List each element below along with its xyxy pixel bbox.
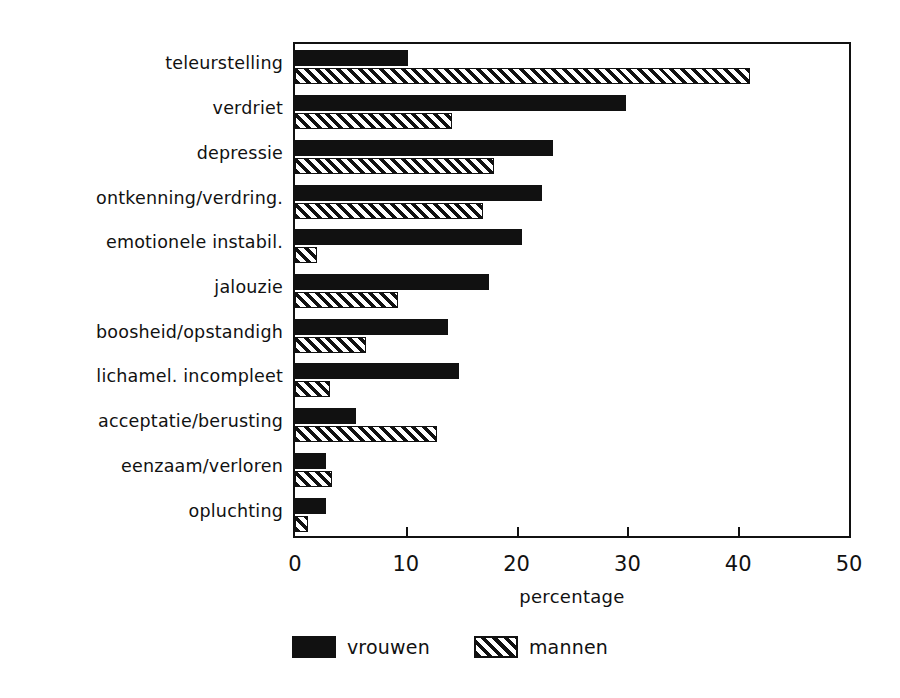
y-axis-label: lichamel. incompleet <box>0 368 283 386</box>
bar-vrouwen <box>295 274 489 290</box>
y-axis-label: jalouzie <box>0 279 283 297</box>
y-axis-label: ontkenning/verdring. <box>0 190 283 208</box>
x-axis-tick <box>406 527 408 538</box>
bar-mannen <box>295 203 483 219</box>
x-axis-tick-label: 20 <box>503 552 530 576</box>
legend-item-vrouwen: vrouwen <box>292 636 430 658</box>
y-axis-label: eenzaam/verloren <box>0 458 283 476</box>
bar-vrouwen <box>295 498 326 514</box>
x-axis-tick <box>738 527 740 538</box>
bar-vrouwen <box>295 50 408 66</box>
y-axis-label: depressie <box>0 145 283 163</box>
bar-vrouwen <box>295 185 542 201</box>
bar-mannen <box>295 426 437 442</box>
legend-label-mannen: mannen <box>529 636 608 658</box>
bar-mannen <box>295 247 317 263</box>
y-axis-label: teleurstelling <box>0 55 283 73</box>
legend-label-vrouwen: vrouwen <box>347 636 430 658</box>
x-axis-tick-label: 10 <box>392 552 419 576</box>
bar-vrouwen <box>295 319 448 335</box>
bar-series-group <box>295 44 849 536</box>
x-axis-tick-labels: 01020304050 <box>293 552 851 580</box>
legend-swatch-solid-icon <box>292 636 336 658</box>
legend-item-mannen: mannen <box>474 636 608 658</box>
x-axis-tick-label: 30 <box>614 552 641 576</box>
bar-mannen <box>295 68 750 84</box>
chart-legend: vrouwen mannen <box>0 636 900 658</box>
bar-vrouwen <box>295 229 522 245</box>
bar-vrouwen <box>295 95 626 111</box>
bar-mannen <box>295 158 494 174</box>
bar-mannen <box>295 471 332 487</box>
legend-swatch-hatched-icon <box>474 636 518 658</box>
bar-vrouwen <box>295 408 356 424</box>
bar-vrouwen <box>295 453 326 469</box>
bar-mannen <box>295 381 330 397</box>
bar-mannen <box>295 292 398 308</box>
bar-vrouwen <box>295 140 553 156</box>
x-axis-ticks <box>293 538 851 550</box>
y-axis-label: emotionele instabil. <box>0 234 283 252</box>
x-axis-tick <box>517 527 519 538</box>
bar-mannen <box>295 337 366 353</box>
x-axis-tick-label: 40 <box>725 552 752 576</box>
y-axis-label: boosheid/opstandigh <box>0 324 283 342</box>
y-axis-label: verdriet <box>0 100 283 118</box>
x-axis-tick-label: 0 <box>288 552 301 576</box>
bar-vrouwen <box>295 363 459 379</box>
bar-mannen <box>295 113 452 129</box>
x-axis-tick-label: 50 <box>836 552 863 576</box>
y-axis-labels: teleurstellingverdrietdepressieontkennin… <box>0 42 283 538</box>
x-axis-title: percentage <box>293 586 851 607</box>
bar-chart: teleurstellingverdrietdepressieontkennin… <box>0 0 900 698</box>
x-axis-tick <box>627 527 629 538</box>
y-axis-label: opluchting <box>0 503 283 521</box>
bar-mannen <box>295 516 308 532</box>
y-axis-label: acceptatie/berusting <box>0 413 283 431</box>
